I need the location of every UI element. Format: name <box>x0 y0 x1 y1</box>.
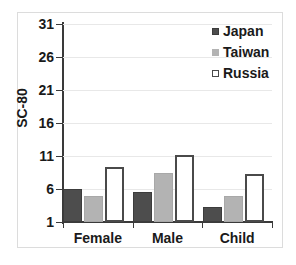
legend-item-russia[interactable]: Russia <box>212 64 290 82</box>
gridline <box>63 156 272 157</box>
gridline <box>63 123 272 124</box>
y-axis-tick-label: 21 <box>38 83 54 97</box>
x-axis-tick <box>272 222 273 228</box>
y-axis-tick <box>56 57 62 58</box>
y-axis-tick <box>56 24 62 25</box>
bar-japan-child <box>203 207 222 222</box>
x-axis-tick <box>63 222 64 228</box>
legend-item-taiwan[interactable]: Taiwan <box>212 43 290 61</box>
y-axis-tick-label: 16 <box>38 116 54 130</box>
bar-russia-male <box>175 155 194 222</box>
x-axis-category-label: Female <box>63 230 133 246</box>
bar-japan-male <box>133 192 152 222</box>
y-axis-tick <box>56 189 62 190</box>
y-axis-tick <box>56 156 62 157</box>
x-axis-category-label: Child <box>202 230 272 246</box>
y-axis-tick-label: 1 <box>46 215 54 229</box>
chart-legend: JapanTaiwanRussia <box>212 22 290 85</box>
legend-swatch-icon <box>212 70 219 77</box>
gridline <box>63 90 272 91</box>
legend-item-japan[interactable]: Japan <box>212 22 290 40</box>
x-axis-tick <box>202 222 203 228</box>
y-axis-tick-label: 11 <box>39 149 54 163</box>
bar-russia-child <box>245 174 264 222</box>
x-axis-category-label: Male <box>133 230 203 246</box>
legend-swatch-icon <box>212 28 219 35</box>
legend-swatch-icon <box>212 49 219 56</box>
y-axis-tick <box>56 222 62 223</box>
y-axis-tick <box>56 123 62 124</box>
x-axis-tick <box>133 222 134 228</box>
bar-taiwan-female <box>84 196 103 222</box>
legend-label: Taiwan <box>223 45 269 59</box>
y-axis-tick-label: 31 <box>38 17 54 31</box>
chart-figure: 161116212631 SC-80 JapanTaiwanRussia Fem… <box>0 0 296 265</box>
legend-label: Russia <box>223 66 269 80</box>
y-axis-tick <box>56 90 62 91</box>
legend-label: Japan <box>223 24 263 38</box>
bar-japan-female <box>63 189 82 222</box>
y-axis-tick-label: 6 <box>46 182 54 196</box>
bar-taiwan-male <box>154 173 173 223</box>
y-axis-tick-label: 26 <box>38 50 54 64</box>
bar-taiwan-child <box>224 196 243 222</box>
bar-russia-female <box>105 167 124 222</box>
y-axis-title: SC-80 <box>14 78 30 138</box>
